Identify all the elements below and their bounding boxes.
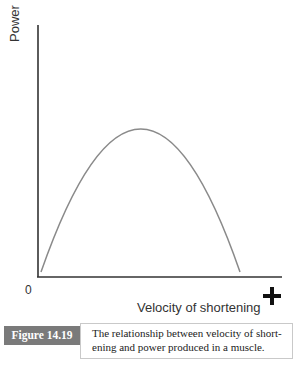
y-axis-label: Power — [7, 5, 22, 42]
origin-label: 0 — [25, 283, 32, 297]
figure-caption: The relationship between velocity of sho… — [92, 326, 292, 354]
x-axis-label: Velocity of shortening — [137, 300, 261, 315]
power-curve — [41, 129, 240, 272]
caption-line-2: ening and power produced in a muscle. — [92, 340, 292, 354]
plus-icon — [263, 287, 281, 305]
chart-plot — [0, 0, 306, 320]
figure-tag: Figure 14.19 — [4, 326, 80, 345]
caption-line-1: The relationship between velocity of sho… — [92, 326, 292, 340]
